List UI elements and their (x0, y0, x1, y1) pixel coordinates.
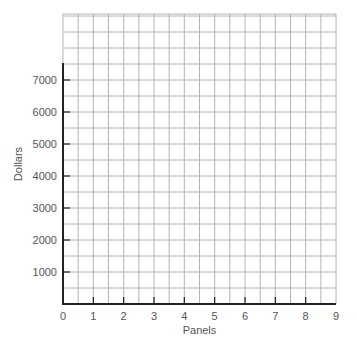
y-axis-title: Dollars (12, 146, 24, 181)
x-tick-label: 0 (60, 310, 66, 322)
y-tick-label: 6000 (33, 106, 57, 118)
x-tick-label: 9 (333, 310, 339, 322)
x-tick-label: 4 (181, 310, 187, 322)
y-tick-label: 4000 (33, 170, 57, 182)
y-tick-label: 3000 (33, 202, 57, 214)
y-tick-label: 1000 (33, 266, 57, 278)
chart: 01234567891000200030004000500060007000Pa… (0, 0, 357, 348)
y-tick-label: 2000 (33, 234, 57, 246)
x-tick-label: 3 (151, 310, 157, 322)
x-tick-label: 6 (242, 310, 248, 322)
x-axis-title: Panels (183, 324, 217, 336)
x-tick-label: 1 (90, 310, 96, 322)
x-tick-label: 7 (272, 310, 278, 322)
x-tick-label: 5 (212, 310, 218, 322)
y-tick-label: 7000 (33, 74, 57, 86)
x-tick-label: 8 (303, 310, 309, 322)
x-tick-label: 2 (121, 310, 127, 322)
y-tick-label: 5000 (33, 138, 57, 150)
